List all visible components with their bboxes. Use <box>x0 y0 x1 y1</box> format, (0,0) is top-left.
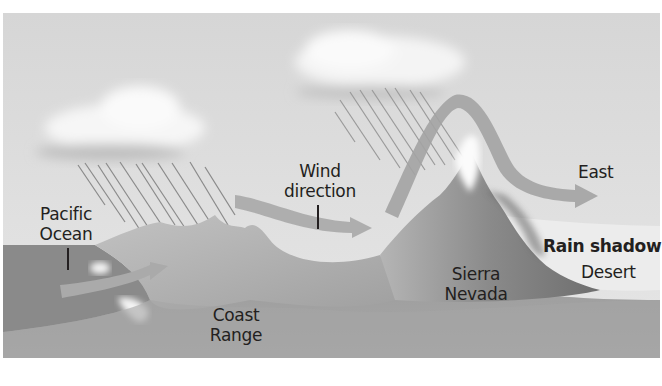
desert-label: Desert <box>581 262 636 282</box>
wind-leader-line <box>317 205 319 229</box>
pacific-leader-line <box>67 248 69 270</box>
sierra-label-line2: Nevada <box>444 284 508 304</box>
coast-range-label: Coast Range <box>206 305 266 345</box>
sierra-nevada-label: Sierra Nevada <box>444 264 508 304</box>
wind-direction-label: Wind direction <box>280 161 360 201</box>
pacific-ocean-label: Pacific Ocean <box>34 204 98 244</box>
wind-label-line1: Wind <box>280 161 360 181</box>
pacific-label-line1: Pacific <box>34 204 98 224</box>
sierra-label-line1: Sierra <box>444 264 508 284</box>
pacific-label-line2: Ocean <box>34 224 98 244</box>
coast-label-line2: Range <box>206 325 266 345</box>
rain-shadow-label: Rain shadow <box>543 236 661 256</box>
east-label: East <box>578 162 613 182</box>
coast-label-line1: Coast <box>206 305 266 325</box>
coast-surf-top <box>90 262 110 274</box>
wind-label-line2: direction <box>280 181 360 201</box>
